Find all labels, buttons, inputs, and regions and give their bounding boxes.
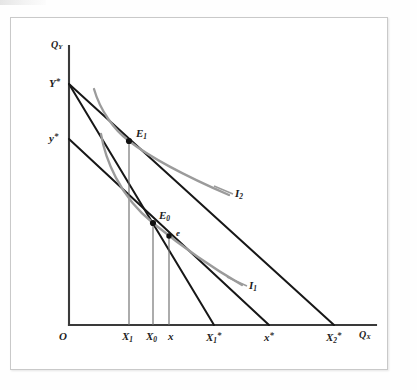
- consumer-choice-plot: [11, 18, 387, 369]
- point-label-e: e: [176, 229, 180, 238]
- scan-edge-artifact: [0, 0, 46, 5]
- figure-frame: QY QX O Y* y* X1 X0 x X1* x* X2* E1 E0 e…: [10, 17, 388, 370]
- axis-group: [69, 46, 376, 325]
- marker-E0: [150, 220, 156, 226]
- x-tick-label-x: x: [168, 331, 174, 342]
- marker-E1: [126, 138, 132, 144]
- x-tick-label-X2-star: X2*: [326, 331, 341, 344]
- point-label-E1: E1: [136, 128, 147, 140]
- budget-line-Ystar-to-X1star: [69, 84, 214, 325]
- x-tick-label-X0: X0: [146, 331, 157, 343]
- point-label-E0: E0: [159, 210, 170, 222]
- curve-label-I2: I2: [235, 188, 243, 200]
- indifference-curve-group: [94, 89, 242, 285]
- y-axis-label: QY: [51, 40, 62, 51]
- x-tick-label-x-star: x*: [264, 331, 274, 343]
- y-intercept-label-y-star: y*: [49, 132, 58, 144]
- indifference-curve-I1: [101, 134, 242, 285]
- indifference-curve-I2: [94, 89, 229, 195]
- x-tick-label-X1: X1: [122, 331, 133, 343]
- origin-label: O: [59, 331, 67, 342]
- figure-page: QY QX O Y* y* X1 X0 x X1* x* X2* E1 E0 e…: [0, 0, 417, 390]
- curve-label-I1: I1: [249, 280, 257, 292]
- leader-I1: [227, 277, 247, 286]
- x-axis-label: QX: [359, 330, 371, 341]
- x-tick-label-X1-star: X1*: [206, 331, 221, 344]
- y-intercept-label-Y-star: Y*: [49, 77, 60, 89]
- marker-e: [166, 233, 171, 238]
